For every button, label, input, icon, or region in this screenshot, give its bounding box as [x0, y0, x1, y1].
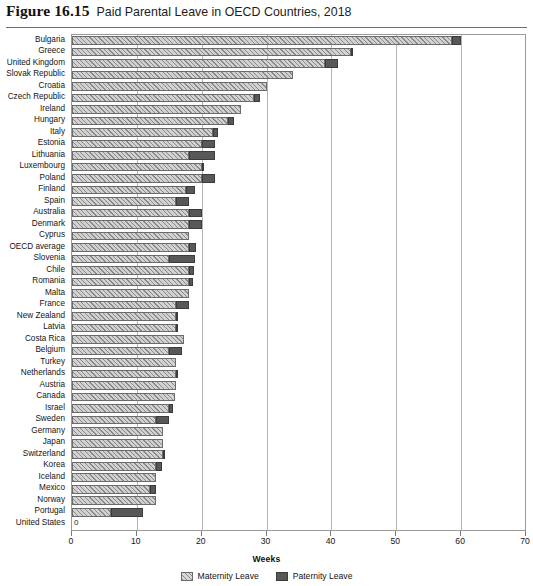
bar-row[interactable] [72, 208, 525, 220]
maternity-bar-segment[interactable] [72, 36, 452, 45]
maternity-bar-segment[interactable] [72, 393, 175, 402]
maternity-bar-segment[interactable] [72, 174, 202, 183]
maternity-bar-segment[interactable] [72, 255, 169, 264]
bar-row[interactable] [72, 139, 525, 151]
bar-row[interactable] [72, 484, 525, 496]
bar-row[interactable] [72, 219, 525, 231]
bar-row[interactable] [72, 300, 525, 312]
maternity-bar-segment[interactable] [72, 473, 156, 482]
maternity-bar-segment[interactable] [72, 94, 254, 103]
paternity-bar-segment[interactable] [169, 347, 182, 356]
paternity-bar-segment[interactable] [189, 243, 195, 252]
bar-row[interactable] [72, 461, 525, 473]
bar-row[interactable] [72, 392, 525, 404]
paternity-bar-segment[interactable] [186, 186, 196, 195]
paternity-bar-segment[interactable] [189, 209, 202, 218]
paternity-bar-segment[interactable] [202, 163, 205, 172]
maternity-bar-segment[interactable] [72, 462, 156, 471]
maternity-bar-segment[interactable] [72, 71, 293, 80]
maternity-bar-segment[interactable] [72, 186, 186, 195]
maternity-bar-segment[interactable] [72, 232, 189, 241]
paternity-bar-segment[interactable] [189, 220, 202, 229]
maternity-bar-segment[interactable] [72, 163, 202, 172]
bar-row[interactable] [72, 357, 525, 369]
bar-row[interactable] [72, 311, 525, 323]
paternity-bar-segment[interactable] [176, 370, 179, 379]
bar-row[interactable] [72, 415, 525, 427]
bar-row[interactable] [72, 162, 525, 174]
bar-row[interactable] [72, 93, 525, 105]
bar-row[interactable] [72, 449, 525, 461]
paternity-bar-segment[interactable] [150, 485, 156, 494]
maternity-bar-segment[interactable] [72, 439, 163, 448]
paternity-bar-segment[interactable] [189, 278, 194, 287]
bar-row[interactable] [72, 380, 525, 392]
maternity-bar-segment[interactable] [72, 82, 267, 91]
bar-row[interactable] [72, 403, 525, 415]
maternity-bar-segment[interactable] [72, 243, 189, 252]
bar-row[interactable] [72, 47, 525, 59]
bar-row[interactable] [72, 369, 525, 381]
maternity-bar-segment[interactable] [72, 381, 176, 390]
bar-row[interactable] [72, 277, 525, 289]
maternity-bar-segment[interactable] [72, 312, 176, 321]
maternity-bar-segment[interactable] [72, 209, 189, 218]
bar-row[interactable] [72, 58, 525, 70]
bar-row[interactable] [72, 507, 525, 519]
paternity-bar-segment[interactable] [202, 174, 215, 183]
paternity-bar-segment[interactable] [156, 416, 170, 425]
maternity-bar-segment[interactable] [72, 117, 228, 126]
bar-row[interactable] [72, 288, 525, 300]
bar-row[interactable] [72, 127, 525, 139]
maternity-bar-segment[interactable] [72, 404, 169, 413]
paternity-bar-segment[interactable] [189, 266, 194, 275]
bar-row[interactable] [72, 231, 525, 243]
paternity-bar-segment[interactable] [213, 128, 218, 137]
maternity-bar-segment[interactable] [72, 140, 202, 149]
maternity-bar-segment[interactable] [72, 128, 213, 137]
paternity-bar-segment[interactable] [202, 140, 215, 149]
maternity-bar-segment[interactable] [72, 197, 176, 206]
bar-row[interactable] [72, 495, 525, 507]
maternity-bar-segment[interactable] [72, 324, 176, 333]
bar-row[interactable] [72, 185, 525, 197]
paternity-bar-segment[interactable] [351, 48, 354, 57]
maternity-bar-segment[interactable] [72, 496, 156, 505]
bar-row[interactable] [72, 196, 525, 208]
maternity-bar-segment[interactable] [72, 416, 156, 425]
maternity-bar-segment[interactable] [72, 347, 169, 356]
bar-row[interactable]: 0 [72, 518, 525, 530]
bar-row[interactable] [72, 438, 525, 450]
bar-row[interactable] [72, 116, 525, 128]
bar-row[interactable] [72, 334, 525, 346]
paternity-bar-segment[interactable] [169, 404, 173, 413]
maternity-bar-segment[interactable] [72, 335, 184, 344]
maternity-bar-segment[interactable] [72, 370, 176, 379]
maternity-bar-segment[interactable] [72, 289, 189, 298]
maternity-bar-segment[interactable] [72, 450, 163, 459]
paternity-bar-segment[interactable] [176, 312, 179, 321]
maternity-bar-segment[interactable] [72, 220, 189, 229]
maternity-bar-segment[interactable] [72, 105, 241, 114]
maternity-bar-segment[interactable] [72, 48, 351, 57]
maternity-bar-segment[interactable] [72, 301, 176, 310]
bar-row[interactable] [72, 242, 525, 254]
paternity-bar-segment[interactable] [452, 36, 461, 45]
maternity-bar-segment[interactable] [72, 358, 176, 367]
maternity-bar-segment[interactable] [72, 278, 189, 287]
bar-row[interactable] [72, 472, 525, 484]
paternity-bar-segment[interactable] [156, 462, 162, 471]
bar-row[interactable] [72, 254, 525, 266]
bar-row[interactable] [72, 35, 525, 47]
bar-row[interactable] [72, 426, 525, 438]
paternity-bar-segment[interactable] [176, 197, 190, 206]
paternity-bar-segment[interactable] [325, 59, 338, 68]
maternity-bar-segment[interactable] [72, 266, 189, 275]
maternity-bar-segment[interactable] [72, 485, 150, 494]
bar-row[interactable] [72, 150, 525, 162]
paternity-bar-segment[interactable] [189, 151, 215, 160]
maternity-bar-segment[interactable] [72, 427, 163, 436]
bar-row[interactable] [72, 81, 525, 93]
bar-row[interactable] [72, 265, 525, 277]
bar-row[interactable] [72, 104, 525, 116]
